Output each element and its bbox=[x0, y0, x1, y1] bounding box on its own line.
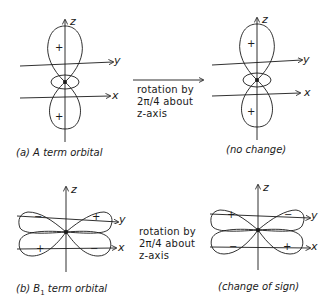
x-axis-label: x bbox=[304, 87, 311, 99]
x-axis-label: x bbox=[118, 242, 125, 254]
sign-upper-lobe: + bbox=[247, 38, 255, 50]
sign-upper-lobe: + bbox=[55, 42, 63, 54]
sign-lower-right-lobe: + bbox=[283, 241, 291, 253]
x-axis-label: x bbox=[311, 241, 318, 253]
y-axis-label: y bbox=[303, 54, 310, 66]
sign-upper-left-lobe: − bbox=[34, 211, 42, 223]
b1-term-orbital-right bbox=[210, 185, 310, 270]
rotation-text-bottom: rotation by 2π/4 about z-axis bbox=[139, 226, 196, 262]
rotation-text-top: rotation by 2π/4 about z-axis bbox=[137, 84, 194, 120]
sign-lower-left-lobe: + bbox=[36, 243, 44, 255]
z-axis-label: z bbox=[262, 14, 268, 26]
sign-upper-right-lobe: − bbox=[284, 209, 292, 221]
sign-upper-right-lobe: + bbox=[92, 211, 100, 223]
sign-lower-lobe: + bbox=[247, 106, 255, 118]
sign-lower-right-lobe: − bbox=[90, 243, 98, 255]
a-term-orbital-right bbox=[212, 18, 302, 140]
z-axis-label: z bbox=[263, 182, 269, 194]
y-axis-label: y bbox=[114, 55, 121, 67]
x-axis-label: x bbox=[112, 90, 119, 102]
caption-no-change: (no change) bbox=[226, 144, 286, 156]
caption-a-term-orbital: (a) A term orbital bbox=[16, 147, 102, 159]
z-axis-label: z bbox=[71, 184, 77, 196]
sign-lower-left-lobe: − bbox=[229, 241, 237, 253]
b1-term-orbital-left bbox=[17, 187, 118, 272]
a-term-orbital-left bbox=[20, 20, 113, 142]
y-axis-label: y bbox=[311, 210, 318, 222]
z-axis-label: z bbox=[70, 16, 76, 28]
y-axis-label: y bbox=[119, 214, 126, 226]
caption-b1-term-orbital: (b) B1 term orbital bbox=[16, 283, 107, 299]
caption-change-of-sign: (change of sign) bbox=[218, 281, 299, 293]
sign-upper-left-lobe: + bbox=[227, 209, 235, 221]
sign-lower-lobe: + bbox=[55, 111, 63, 123]
